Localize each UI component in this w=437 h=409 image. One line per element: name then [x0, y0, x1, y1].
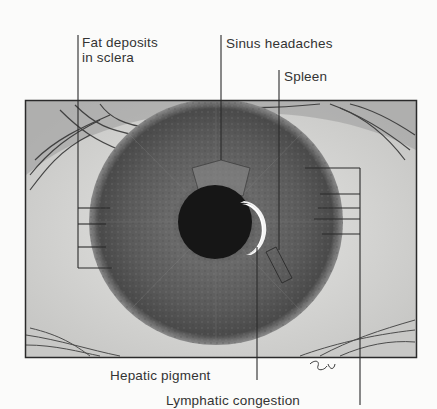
label-sinus-headaches: Sinus headaches [226, 36, 333, 51]
label-fat-deposits: Fat deposits in sclera [82, 35, 158, 65]
eye-photo-illustration [0, 0, 437, 409]
iris-diagram: Fat deposits in sclera Sinus headaches S… [0, 0, 437, 409]
label-fat-deposits-line1: Fat deposits [82, 35, 158, 50]
label-hepatic-pigment: Hepatic pigment [110, 368, 211, 383]
label-fat-deposits-line2: in sclera [82, 50, 158, 65]
label-spleen: Spleen [284, 69, 327, 84]
scribble-mark [310, 361, 335, 370]
label-lymphatic-congestion: Lymphatic congestion [166, 393, 300, 408]
